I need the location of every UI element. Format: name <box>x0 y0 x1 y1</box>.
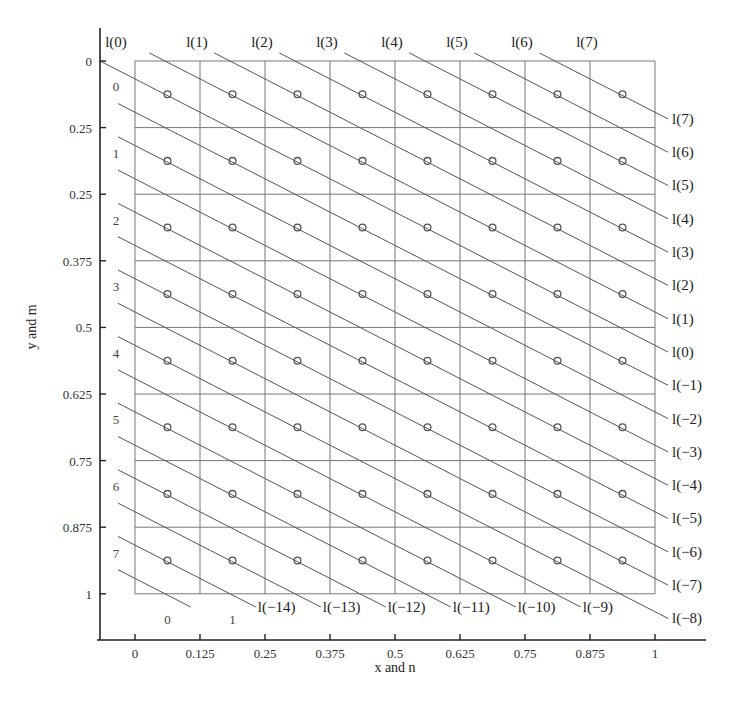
column-index-label: 0 <box>164 612 171 627</box>
line-l-14 <box>118 536 256 607</box>
top-line-label: l(6) <box>511 34 533 51</box>
row-index-label: 7 <box>113 546 120 561</box>
right-line-label: l(6) <box>672 144 694 161</box>
top-line-label: l(1) <box>186 34 208 51</box>
line-l7 <box>539 53 668 119</box>
diagonal-lines <box>100 53 668 618</box>
right-line-label: l(0) <box>672 344 694 361</box>
row-index-label: 0 <box>113 79 120 94</box>
y-axis-title: y and m <box>24 304 39 349</box>
x-tick-label: 0.875 <box>575 646 604 661</box>
y-tick-label: 0.5 <box>76 320 92 335</box>
y-tick-label: 0.875 <box>63 520 92 535</box>
line-l-13 <box>118 503 321 607</box>
x-tick-label: 0.5 <box>387 646 403 661</box>
right-line-label: l(5) <box>672 177 694 194</box>
top-line-label: l(2) <box>251 34 273 51</box>
top-line-label: l(4) <box>381 34 403 51</box>
right-line-label: l(−1) <box>672 377 702 394</box>
x-tick-labels: 00.1250.250.3750.50.6250.750.8751 <box>132 634 659 661</box>
top-line-label: l(5) <box>446 34 468 51</box>
line-l3 <box>279 53 668 252</box>
row-index-label: 1 <box>113 146 120 161</box>
bottom-line-label: l(−12) <box>388 599 426 616</box>
right-line-label: l(7) <box>672 111 694 128</box>
line-l0 <box>100 61 668 352</box>
row-index-label: 6 <box>113 479 120 494</box>
x-tick-label: 0.25 <box>254 646 277 661</box>
right-line-label: l(−2) <box>672 411 702 428</box>
row-index-label: 4 <box>113 346 120 361</box>
x-tick-label: 0.625 <box>445 646 474 661</box>
row-index-label: 2 <box>113 213 120 228</box>
y-tick-label: 0 <box>86 54 93 69</box>
line-l2 <box>214 53 668 285</box>
right-line-label: l(−8) <box>672 610 702 627</box>
line-l-15 <box>118 570 191 607</box>
top-line-label: l(7) <box>576 34 598 51</box>
right-line-label: l(4) <box>672 211 694 228</box>
line-l-10 <box>118 403 516 607</box>
x-axis-title: x and n <box>374 660 415 675</box>
right-line-label: l(−5) <box>672 510 702 527</box>
right-line-label: l(−4) <box>672 477 702 494</box>
right-line-label: l(−3) <box>672 444 702 461</box>
line-l-12 <box>118 470 386 607</box>
line-l5 <box>409 53 668 185</box>
lattice-diagram: 00.250.250.3750.50.6250.750.8751 00.1250… <box>0 0 756 709</box>
y-tick-label: 0.25 <box>69 121 92 136</box>
y-tick-label: 0.25 <box>69 187 92 202</box>
line-l6 <box>474 53 668 152</box>
line-labels: l(0)l(1)l(2)l(3)l(4)l(5)l(6)l(7)l(7)l(6)… <box>105 34 702 627</box>
top-line-label: l(3) <box>316 34 338 51</box>
cell-grid <box>135 61 655 594</box>
bottom-line-label: l(−14) <box>258 599 296 616</box>
y-tick-label: 1 <box>86 587 93 602</box>
x-tick-label: 0.75 <box>514 646 537 661</box>
top-line-label: l(0) <box>105 34 127 51</box>
y-tick-label: 0.625 <box>63 387 92 402</box>
y-tick-label: 0.375 <box>63 254 92 269</box>
x-tick-label: 0.375 <box>315 646 344 661</box>
row-index-label: 5 <box>113 412 120 427</box>
x-tick-label: 1 <box>652 646 659 661</box>
right-line-label: l(2) <box>672 277 694 294</box>
right-line-label: l(1) <box>672 311 694 328</box>
right-line-label: l(−6) <box>672 544 702 561</box>
bottom-line-label: l(−9) <box>583 599 613 616</box>
x-tick-label: 0 <box>132 646 139 661</box>
column-index-label: 1 <box>229 612 236 627</box>
row-index-label: 3 <box>113 279 120 294</box>
right-line-label: l(−7) <box>672 577 702 594</box>
bottom-line-label: l(−13) <box>323 599 361 616</box>
line-l-11 <box>118 437 451 607</box>
bottom-line-label: l(−11) <box>453 599 490 616</box>
right-line-label: l(3) <box>672 244 694 261</box>
bottom-line-label: l(−10) <box>518 599 556 616</box>
y-tick-label: 0.75 <box>69 454 92 469</box>
x-tick-label: 0.125 <box>185 646 214 661</box>
